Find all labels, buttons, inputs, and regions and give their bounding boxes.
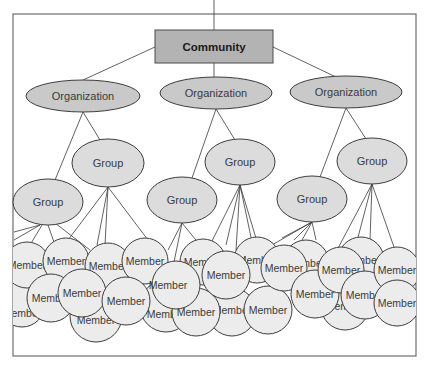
member-label: Member xyxy=(126,255,165,267)
group-label: Group xyxy=(225,156,256,168)
member-label: Member xyxy=(378,264,417,276)
group-label: Group xyxy=(33,196,64,208)
member-label: Member xyxy=(149,279,188,291)
member-node: Member xyxy=(244,286,292,334)
group-node: Group xyxy=(72,139,144,187)
member-node: Member xyxy=(102,277,150,325)
member-cluster: Member Member Member Member Member Membe… xyxy=(0,237,420,342)
member-label: Member xyxy=(47,255,86,267)
organization-label: Organization xyxy=(315,86,377,98)
member-label: Member xyxy=(378,297,417,309)
member-label: Member xyxy=(249,304,288,316)
group-node: Group xyxy=(337,138,407,184)
organization-node: Organization xyxy=(290,76,402,108)
member-label: Member xyxy=(107,295,146,307)
community-node: Community xyxy=(155,30,273,63)
member-label: Member xyxy=(207,269,246,281)
member-node: Member xyxy=(58,269,106,317)
group-label: Group xyxy=(93,157,124,169)
community-hierarchy-diagram: Community Organization Organization Orga… xyxy=(0,0,427,367)
group-node: Group xyxy=(147,177,217,223)
organization-label: Organization xyxy=(185,87,247,99)
group-node: Group xyxy=(13,179,83,225)
member-label: Member xyxy=(63,287,102,299)
member-node: Member xyxy=(374,280,420,326)
member-label: Member xyxy=(265,262,304,274)
group-node: Group xyxy=(277,176,347,222)
group-node: Group xyxy=(205,139,275,185)
group-label: Group xyxy=(357,155,388,167)
member-node: Member xyxy=(202,251,250,299)
organization-node: Organization xyxy=(160,77,272,109)
organization-label: Organization xyxy=(52,90,114,102)
community-label: Community xyxy=(182,41,246,53)
group-label: Group xyxy=(167,194,198,206)
member-label: Member xyxy=(8,259,47,271)
organization-node: Organization xyxy=(26,80,140,112)
group-label: Group xyxy=(297,193,328,205)
